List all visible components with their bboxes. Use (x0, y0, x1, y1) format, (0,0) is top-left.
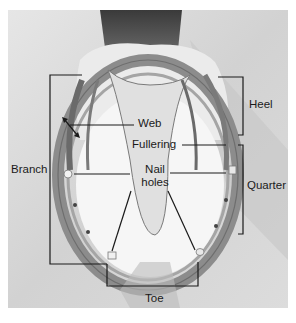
label-toe: Toe (145, 292, 164, 305)
label-fullering: Fullering (132, 138, 176, 151)
label-heel: Heel (249, 98, 273, 111)
branch-bracket (50, 75, 107, 264)
nail-hole-leader-lower-right (168, 191, 195, 250)
toe-bracket (107, 262, 198, 286)
quarter-bracket (238, 145, 243, 234)
label-web: Web (138, 117, 161, 130)
label-nail-holes-line1: Nail (138, 163, 172, 176)
label-nail-holes: Nail holes (138, 163, 172, 188)
label-branch: Branch (11, 163, 47, 176)
nail-hole-leader-lower-left (112, 191, 131, 251)
web-width-arrow (64, 119, 78, 136)
heel-bracket (218, 77, 243, 135)
annotation-lines (0, 0, 296, 323)
label-nail-holes-line2: holes (138, 176, 172, 189)
label-quarter: Quarter (247, 179, 286, 192)
